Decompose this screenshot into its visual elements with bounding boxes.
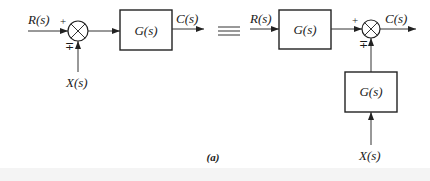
bottom-band (0, 168, 430, 181)
right-diagram: R(s) G(s) + C(s) ∓ G(s) X(s) (249, 10, 416, 163)
right-output-label: C(s) (385, 11, 407, 26)
left-output-label: C(s) (176, 11, 198, 26)
figure-caption: (a) (207, 151, 220, 164)
right-forward-g-block-label: G(s) (293, 22, 316, 37)
left-sum-plus-sign: + (60, 15, 66, 27)
left-diagram: R(s) + ∓ X(s) G(s) C(s) (27, 10, 204, 90)
equivalence-sign (218, 27, 240, 35)
left-g-block-label: G(s) (134, 23, 157, 38)
left-summing-junction (68, 21, 88, 41)
block-diagram-canvas: R(s) + ∓ X(s) G(s) C(s) R(s) G(s) + (0, 0, 430, 181)
left-disturbance-label: X(s) (65, 75, 88, 90)
right-sum-plus-sign: + (352, 14, 358, 26)
left-sum-minusplus-sign: ∓ (65, 40, 74, 52)
left-input-label: R(s) (27, 12, 50, 27)
right-summing-junction (362, 20, 380, 38)
right-sum-minusplus-sign: ∓ (359, 38, 368, 50)
right-input-label: R(s) (249, 11, 272, 26)
right-disturbance-label: X(s) (358, 148, 381, 163)
right-disturbance-g-block-label: G(s) (359, 84, 382, 99)
